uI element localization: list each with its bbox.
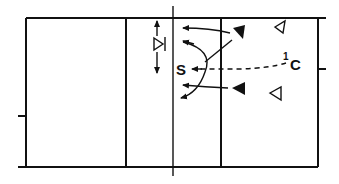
center-number-label: 1 bbox=[283, 51, 289, 62]
blocker-bottom-icon bbox=[232, 82, 245, 95]
setter-label: S bbox=[176, 61, 186, 78]
back-player-top-icon bbox=[275, 21, 285, 33]
blocker-top-icon bbox=[233, 25, 245, 39]
open-triangle-icon bbox=[154, 38, 163, 50]
net-player bbox=[154, 21, 165, 73]
court-diagram: S 1 C bbox=[0, 0, 339, 184]
approach-line bbox=[205, 40, 232, 62]
center-path bbox=[200, 63, 286, 69]
arrow-top-block bbox=[183, 28, 230, 33]
back-player-bottom-icon bbox=[270, 87, 281, 100]
center-label: C bbox=[290, 56, 301, 73]
